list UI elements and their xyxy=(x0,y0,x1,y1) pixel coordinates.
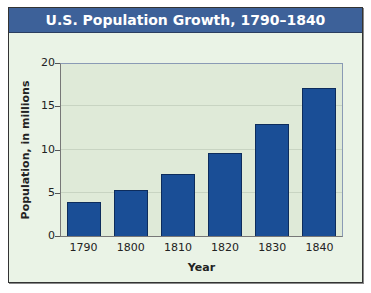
gridline xyxy=(61,105,342,106)
y-tick-label: 5 xyxy=(48,186,55,199)
bar-1800 xyxy=(114,190,148,236)
y-tick-label: 20 xyxy=(41,56,55,69)
x-tick-label: 1840 xyxy=(299,241,339,254)
x-tick-label: 1830 xyxy=(252,241,292,254)
x-tick-label: 1810 xyxy=(158,241,198,254)
bar-1830 xyxy=(255,124,289,236)
bar-1840 xyxy=(302,88,336,236)
gridline xyxy=(61,192,342,193)
y-tick-label: 10 xyxy=(41,143,55,156)
x-tick-label: 1790 xyxy=(64,241,104,254)
plot-area xyxy=(60,63,343,237)
chart-title: U.S. Population Growth, 1790–1840 xyxy=(9,8,362,33)
y-tick-label: 0 xyxy=(48,229,55,242)
x-tick-label: 1800 xyxy=(111,241,151,254)
y-axis-title: Population, in millions xyxy=(19,81,32,220)
bar-1810 xyxy=(161,174,195,236)
y-tick-label: 15 xyxy=(41,99,55,112)
x-tick-label: 1820 xyxy=(205,241,245,254)
x-axis-title: Year xyxy=(60,261,343,274)
bar-1790 xyxy=(67,202,101,236)
bar-1820 xyxy=(208,153,242,236)
gridline xyxy=(61,149,342,150)
